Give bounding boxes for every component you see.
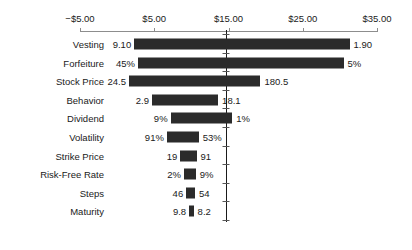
bar-low-value-label: 2.9: [136, 94, 149, 105]
bar-high-value-label: 54: [199, 187, 210, 198]
bar-low-value-label: 46: [173, 187, 184, 198]
chart-row: Behavior2.918.1: [0, 91, 412, 109]
chart-row: Strike Price1991: [0, 147, 412, 165]
base-line-tick: [222, 108, 229, 109]
base-line-tick: [222, 183, 229, 184]
bar-high-value-label: 5%: [348, 57, 362, 68]
tornado-bar: [189, 206, 193, 217]
category-label: Vesting: [0, 39, 104, 50]
category-label: Risk-Free Rate: [0, 169, 104, 180]
base-line-tick: [222, 201, 229, 202]
bar-high-value-label: 1.90: [354, 39, 373, 50]
chart-row: Vesting9.101.90: [0, 35, 412, 53]
category-label: Stock Price: [0, 76, 104, 87]
x-axis-tick-label: $5.00: [142, 13, 166, 24]
tornado-bar: [134, 39, 349, 50]
base-line-tick: [222, 146, 229, 147]
chart-row: Dividend9%1%: [0, 109, 412, 127]
category-label: Dividend: [0, 113, 104, 124]
bar-low-value-label: 91%: [145, 132, 164, 143]
bar-low-value-label: 24.5: [108, 76, 127, 87]
bar-high-value-label: 91: [201, 150, 212, 161]
base-line-tick: [222, 164, 229, 165]
tornado-bar: [167, 132, 199, 143]
x-axis-tick-mark: [377, 28, 378, 32]
category-label: Strike Price: [0, 150, 104, 161]
bar-low-value-label: 45%: [116, 57, 135, 68]
plot-area: −$5.00$5.00$15.00$25.00$35.00 Vesting9.1…: [0, 0, 412, 250]
x-axis-tick-label: $25.00: [288, 13, 317, 24]
chart-row: Stock Price24.5180.5: [0, 72, 412, 90]
tornado-bar: [152, 94, 218, 105]
x-axis-tick-mark: [303, 28, 304, 32]
chart-row: Volatility91%53%: [0, 128, 412, 146]
tornado-bar: [129, 76, 260, 87]
category-label: Steps: [0, 187, 104, 198]
x-axis-tick-label: $15.00: [214, 13, 243, 24]
x-axis-tick-labels: −$5.00$5.00$15.00$25.00$35.00: [0, 13, 412, 26]
tornado-bar: [184, 169, 196, 180]
base-line-tick: [222, 127, 229, 128]
base-line-tick: [222, 71, 229, 72]
category-label: Forfeiture: [0, 57, 104, 68]
chart-row: Forfeiture45%5%: [0, 54, 412, 72]
bar-high-value-label: 1%: [236, 113, 250, 124]
tornado-bar: [138, 57, 344, 68]
base-line-tick: [222, 220, 229, 221]
bar-high-value-label: 8.2: [198, 206, 211, 217]
x-axis-tick-label: −$5.00: [65, 13, 94, 24]
tornado-chart: −$5.00$5.00$15.00$25.00$35.00 Vesting9.1…: [0, 0, 412, 250]
base-line-tick: [222, 34, 229, 35]
bar-high-value-label: 9%: [200, 169, 214, 180]
chart-row: Risk-Free Rate2%9%: [0, 165, 412, 183]
bar-low-value-label: 9%: [154, 113, 168, 124]
tornado-bar: [186, 187, 195, 198]
x-axis-tick-mark: [80, 28, 81, 32]
bar-low-value-label: 2%: [167, 169, 181, 180]
x-axis-tick-mark: [229, 28, 230, 32]
category-label: Volatility: [0, 132, 104, 143]
tornado-bar: [180, 150, 196, 161]
bar-high-value-label: 18.1: [222, 94, 241, 105]
x-axis-tick-mark: [154, 28, 155, 32]
bar-high-value-label: 180.5: [264, 76, 288, 87]
chart-row: Steps4654: [0, 184, 412, 202]
category-label: Maturity: [0, 206, 104, 217]
bar-low-value-label: 9.10: [113, 39, 132, 50]
base-line-tick: [222, 90, 229, 91]
bar-low-value-label: 19: [167, 150, 178, 161]
bar-high-value-label: 53%: [203, 132, 222, 143]
chart-row: Maturity9.88.2: [0, 202, 412, 220]
category-label: Behavior: [0, 94, 104, 105]
tornado-bar: [171, 113, 233, 124]
x-axis-tick-label: $35.00: [362, 13, 391, 24]
base-line-tick: [222, 53, 229, 54]
bar-low-value-label: 9.8: [173, 206, 186, 217]
